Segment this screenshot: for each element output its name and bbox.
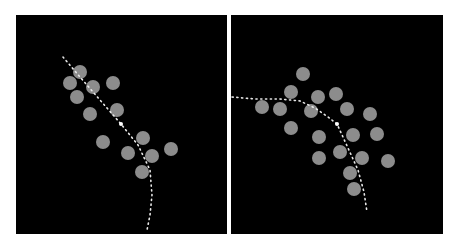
data-circle	[296, 67, 310, 81]
data-circle	[106, 76, 120, 90]
data-circle	[255, 100, 269, 114]
data-circle	[312, 151, 326, 165]
marker-dot	[119, 122, 123, 126]
data-circle	[312, 130, 326, 144]
data-circle	[347, 182, 361, 196]
data-circle	[83, 107, 97, 121]
marker-dot	[335, 122, 339, 126]
data-circle	[273, 102, 287, 116]
data-circle	[370, 127, 384, 141]
data-circle	[121, 146, 135, 160]
scatter-overlay	[0, 0, 459, 247]
data-circle	[284, 85, 298, 99]
data-circle	[63, 76, 77, 90]
data-circle	[343, 166, 357, 180]
data-circle	[136, 131, 150, 145]
data-circle	[96, 135, 110, 149]
data-circle	[381, 154, 395, 168]
left-panel-content	[63, 57, 178, 230]
right-panel-content	[232, 67, 395, 212]
data-circle	[329, 87, 343, 101]
data-circle	[164, 142, 178, 156]
data-circle	[145, 149, 159, 163]
data-circle	[284, 121, 298, 135]
data-circle	[340, 102, 354, 116]
data-circle	[110, 103, 124, 117]
data-circle	[363, 107, 377, 121]
data-circle	[355, 151, 369, 165]
data-circle	[304, 104, 318, 118]
data-circle	[333, 145, 347, 159]
data-circle	[70, 90, 84, 104]
data-circle	[135, 165, 149, 179]
data-circle	[346, 128, 360, 142]
data-circle	[311, 90, 325, 104]
